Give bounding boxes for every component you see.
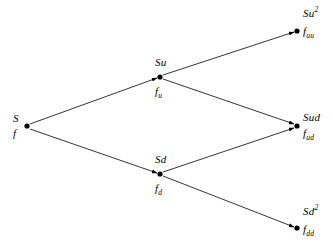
option-subscript-down: d — [158, 188, 162, 197]
tree-edges-layer — [0, 0, 333, 251]
asset-price-label-down: Sd — [155, 154, 166, 165]
tree-edge-down-downdown — [163, 176, 294, 227]
asset-price-label-upup: Su2 — [303, 8, 318, 19]
option-value-label-root: f — [13, 128, 16, 139]
option-value-label-up: fu — [155, 86, 162, 97]
tree-node-up[interactable] — [157, 74, 162, 79]
tree-node-downdown[interactable] — [294, 225, 299, 230]
option-subscript-downdown: dd — [306, 229, 314, 238]
option-value-label-updown: fud — [303, 128, 314, 139]
tree-node-root[interactable] — [24, 123, 29, 128]
asset-price-label-up: Su — [155, 57, 166, 68]
tree-edge-root-down — [30, 129, 157, 173]
tree-node-down[interactable] — [157, 171, 162, 176]
option-value-label-downdown: fdd — [303, 224, 314, 235]
option-value-label-down: fd — [155, 183, 162, 194]
binomial-tree-diagram: SfSufuSdfdSu2fuuSudfudSd2fdd — [0, 0, 333, 251]
tree-edge-down-updown — [163, 128, 294, 172]
asset-exponent-downdown: 2 — [314, 203, 318, 212]
asset-price-label-downdown: Sd2 — [303, 206, 318, 217]
asset-price-label-root: S — [13, 113, 19, 124]
tree-node-updown[interactable] — [294, 123, 299, 128]
option-subscript-upup: uu — [306, 31, 314, 40]
option-subscript-up: u — [158, 91, 162, 100]
option-value-label-upup: fuu — [303, 26, 314, 37]
asset-exponent-upup: 2 — [314, 5, 318, 14]
tree-edge-up-upup — [163, 32, 294, 75]
asset-price-label-updown: Sud — [303, 112, 320, 123]
tree-edge-up-updown — [163, 79, 294, 124]
tree-edge-root-up — [30, 78, 157, 124]
option-subscript-updown: ud — [306, 133, 314, 142]
tree-node-upup[interactable] — [294, 28, 299, 33]
